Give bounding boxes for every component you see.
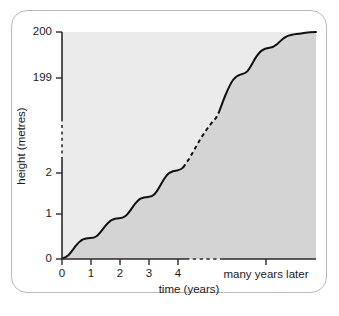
- x-tick-label-1: 1: [88, 268, 94, 280]
- x-tick-label-0: 0: [59, 268, 65, 280]
- y-axis-title: height (metres): [15, 81, 27, 211]
- x-tick-label-many-years-later: many years later: [223, 268, 308, 280]
- figure-container: 200 199 2 1 0 0 1 2 3 4 many years later…: [0, 0, 339, 316]
- x-tick-label-2: 2: [117, 268, 123, 280]
- y-tick-label-200: 200: [12, 26, 52, 38]
- y-tick-label-0: 0: [12, 253, 52, 265]
- x-axis-title: time (years): [62, 283, 316, 295]
- x-tick-label-3: 3: [146, 268, 152, 280]
- x-tick-label-4: 4: [175, 268, 181, 280]
